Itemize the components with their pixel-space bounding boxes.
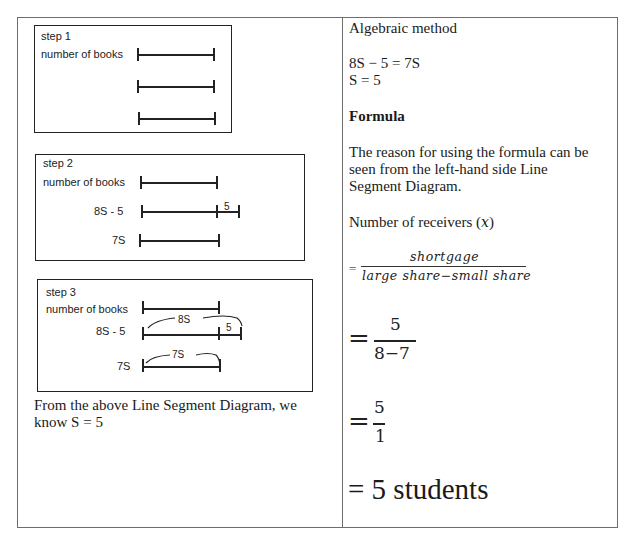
left-caption-line2: know S = 5 — [34, 414, 334, 431]
left-caption: From the above Line Segment Diagram, we … — [34, 397, 334, 431]
step2-row-8s-minus-5: 8S - 5 — [94, 205, 123, 217]
reason-line-1: The reason for using the formula can be — [349, 144, 611, 161]
formula-numerator: shortgage — [410, 249, 479, 264]
segment-line — [140, 182, 217, 184]
segment-tick — [218, 234, 220, 247]
segment-line — [137, 86, 214, 88]
step-a-numerator: 5 — [390, 314, 401, 334]
receivers-text: Number of receivers ( — [349, 214, 481, 230]
step-a-fraction-bar — [374, 340, 416, 342]
step-a-denominator: 8−7 — [374, 343, 410, 363]
reason-line-3: Segment Diagram. — [349, 178, 611, 195]
step3-row-8s-minus-5: 8S - 5 — [96, 325, 125, 337]
receivers-variable: x — [481, 214, 489, 230]
step2-excess-label: 5 — [224, 201, 230, 212]
segment-line — [142, 308, 219, 310]
step-b-equals: = — [348, 406, 370, 436]
reason-line-2: seen from the left-hand side Line — [349, 161, 611, 178]
segment-line — [137, 54, 214, 56]
step2-row-books: number of books — [43, 176, 125, 188]
segment-tick — [216, 205, 218, 218]
segment-tick — [216, 176, 218, 189]
step3-row-7s: 7S — [117, 360, 130, 372]
segment-tick — [238, 205, 240, 218]
equation-1: 8S − 5 = 7S — [349, 55, 611, 72]
formula-equals: = — [349, 261, 356, 277]
result-text: = 5 students — [348, 473, 488, 506]
segment-tick — [213, 48, 215, 61]
step3-row-books: number of books — [46, 303, 128, 315]
formula-heading: Formula — [349, 108, 611, 125]
step-b-fraction-bar — [373, 423, 385, 425]
step-b-denominator: 1 — [375, 426, 386, 446]
step1-row-label: number of books — [41, 48, 123, 60]
step3-brace-8s-label: 8S — [178, 314, 190, 325]
formula-fraction-bar — [361, 266, 526, 267]
segment-line — [139, 240, 219, 242]
step2-title: step 2 — [43, 157, 73, 169]
step1-title: step 1 — [41, 30, 71, 42]
column-divider — [342, 17, 343, 528]
brace-8s-icon — [145, 312, 245, 332]
step-b-numerator: 5 — [374, 397, 385, 417]
receivers-label: Number of receivers (x) — [349, 214, 611, 231]
segment-tick — [214, 112, 216, 125]
step2-diagram — [35, 154, 305, 261]
segment-line — [138, 118, 215, 120]
step-a-equals: = — [348, 323, 370, 353]
algebraic-heading: Algebraic method — [349, 20, 611, 37]
receivers-close: ) — [489, 214, 494, 230]
segment-line — [142, 334, 241, 336]
left-caption-line1: From the above Line Segment Diagram, we — [34, 397, 334, 414]
step2-row-7s: 7S — [112, 234, 125, 246]
formula-denominator: large share−small share — [362, 268, 531, 283]
segment-tick — [213, 80, 215, 93]
step3-brace-7s-label: 7S — [172, 349, 184, 360]
step3-title: step 3 — [46, 286, 76, 298]
equation-2: S = 5 — [349, 72, 611, 89]
